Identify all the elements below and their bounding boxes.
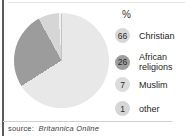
legend-item-label: Christian (139, 31, 183, 41)
legend-unit-header: % (122, 9, 131, 20)
legend-item-christian: 66 Christian (115, 28, 183, 43)
legend-item-label: African religions (139, 52, 183, 72)
legend-value-badge: 1 (115, 101, 130, 116)
source-credit: source: Britannica Online (8, 124, 99, 133)
source-name: Britannica Online (39, 124, 100, 133)
legend-item-african-religions: 26 African religions (115, 52, 183, 72)
legend-item-muslim: 7 Muslim (115, 77, 183, 92)
religion-pie-figure: % 66 Christian 26 African religions 7 Mu… (0, 0, 185, 136)
pie-slice-divider-line (61, 14, 62, 61)
legend-value-badge: 66 (115, 28, 130, 43)
left-page-rule (2, 0, 4, 136)
source-prefix: source: (8, 124, 34, 133)
chart-legend: % 66 Christian 26 African religions 7 Mu… (115, 0, 185, 120)
legend-value-badge: 26 (115, 55, 130, 70)
footer-divider-rule (3, 121, 172, 122)
legend-item-label: Muslim (139, 80, 183, 90)
legend-item-other: 1 other (115, 101, 183, 116)
legend-value-badge: 7 (115, 77, 130, 92)
legend-item-label: other (139, 104, 183, 114)
